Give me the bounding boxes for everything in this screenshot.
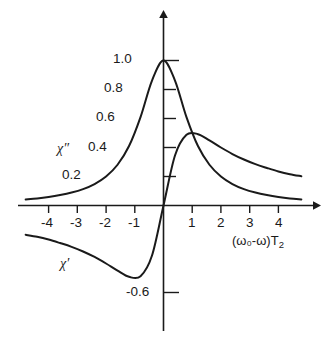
x-tick-label-m4: -4 <box>41 216 53 230</box>
y-axis-arrow <box>159 10 168 18</box>
x-tick-label-m2: -2 <box>99 216 111 230</box>
chart-figure: 1.0 0.8 0.6 0.4 0.2 -0.6 -4 -3 -2 -1 1 2… <box>0 0 329 347</box>
x-axis-arrow <box>313 201 321 210</box>
y-tick-label-0p4: 0.4 <box>88 140 107 154</box>
x-tick-label-m1: -1 <box>128 216 140 230</box>
x-tick-label-2: 2 <box>217 216 225 230</box>
y-tick-label-0p8: 0.8 <box>104 81 123 95</box>
x-axis-title-subscript: 2 <box>279 239 284 250</box>
curve-label-chi-double-prime: χ″ <box>57 142 69 156</box>
x-tick-label-4: 4 <box>275 216 283 230</box>
y-tick-marks <box>164 61 180 293</box>
y-tick-label-1p0: 1.0 <box>113 52 132 66</box>
plot-canvas <box>0 0 329 347</box>
x-axis-title: (ω₀-ω)T2 <box>232 234 284 247</box>
y-tick-label-0p6: 0.6 <box>96 110 115 124</box>
y-tick-label-m0p6: -0.6 <box>126 285 149 299</box>
x-tick-label-3: 3 <box>246 216 254 230</box>
x-axis-title-text: (ω₀-ω)T <box>232 233 279 248</box>
x-axis <box>18 201 321 210</box>
y-tick-label-0p2: 0.2 <box>62 168 81 182</box>
x-tick-label-m3: -3 <box>70 216 82 230</box>
curve-label-chi-prime: χ′ <box>60 257 69 271</box>
y-axis <box>159 10 168 331</box>
x-tick-label-1: 1 <box>188 216 196 230</box>
